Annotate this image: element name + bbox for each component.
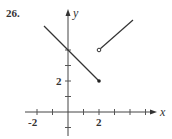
piecewise-graph: 26. x y -2 2 2: [0, 0, 172, 139]
y-axis-arrow-icon: [66, 9, 71, 16]
y-axis-label: y: [72, 6, 79, 20]
open-endpoint-circle: [97, 48, 101, 52]
x-axis-arrow-icon: [150, 110, 157, 115]
x-tick-label-2: 2: [96, 116, 102, 128]
y-tick-label-2: 2: [56, 75, 62, 87]
x-tick-label-neg2: -2: [28, 116, 38, 128]
problem-number: 26.: [6, 7, 20, 19]
right-line-segment: [100, 20, 133, 49]
closed-endpoint-dot: [97, 79, 101, 83]
x-axis-label: x: [159, 105, 166, 119]
left-line-segment: [44, 26, 99, 81]
